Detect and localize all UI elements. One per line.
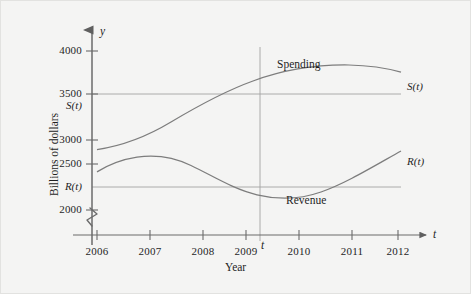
y-tick-label-2000: 2000 [47,204,82,215]
spending-curve-label: Spending [277,59,320,71]
spending-curve [97,65,401,150]
y-tick-label-3000: 3000 [47,134,82,145]
x-tick-label-2011: 2011 [330,246,374,257]
y-tick-label-2500: 2500 [47,158,82,169]
x-tick-label-2006: 2006 [75,246,119,257]
x-tick-label-2010: 2010 [277,246,321,257]
figure-container: y t Billions of dollars Year 4000 3500 3… [0,0,471,294]
revenue-curve-label: Revenue [286,195,326,207]
x-tick-label-2007: 2007 [128,246,172,257]
x-axis-title: Year [225,262,246,274]
y-tick-label-4000: 4000 [47,45,82,56]
y-axis-variable-label: y [100,26,105,38]
x-tick-label-2008: 2008 [181,246,225,257]
revenue-curve [97,151,401,198]
revenue-curve-end-label: R(t) [407,156,424,167]
y-axis-label-r-of-t: R(t) [51,181,82,192]
y-tick-label-3500: 3500 [47,88,82,99]
x-tick-label-2012: 2012 [376,246,420,257]
t-marker-label: t [261,240,264,252]
x-axis-variable-label: t [433,229,436,241]
spending-curve-end-label: S(t) [407,81,423,92]
y-axis-label-s-of-t: S(t) [51,100,82,111]
